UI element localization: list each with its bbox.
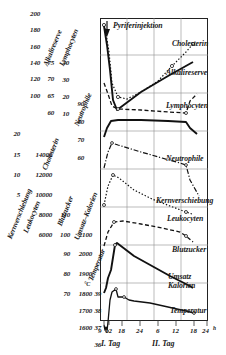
- annotation-temperatur: Temperatur: [170, 306, 206, 315]
- annotation-blutzucker: Blutzucker: [172, 245, 206, 254]
- x-tick-2: 18: [118, 327, 125, 335]
- x-tick-suffix: h: [213, 325, 216, 331]
- x-tick-4: 6: [156, 327, 160, 335]
- day-label-2: II. Tag: [152, 339, 174, 348]
- plot-canvas: [0, 0, 226, 355]
- annotation-kalorien: Kalorien: [168, 281, 195, 290]
- x-tick-0: 9: [98, 327, 102, 335]
- annotation-alkalireserve: Alkalireserve: [166, 68, 207, 77]
- annotation-umsatz: Umsatz: [168, 272, 191, 281]
- annotation-kernverschiebung: Kernverschiebung: [156, 196, 213, 205]
- x-tick-6: 18: [190, 327, 197, 335]
- annotation-pyriferinjektion: Pyriferinjektion: [113, 21, 163, 30]
- annotation-cholesterin: Cholesterin: [172, 39, 208, 48]
- x-tick-5: 12: [172, 327, 179, 335]
- x-tick-3: 24: [136, 327, 143, 335]
- annotation-leukocyten: Leukocyten: [167, 214, 203, 223]
- annotation-lymphocyten: Lymphocyten: [166, 101, 208, 110]
- x-tick-1: 12: [105, 327, 112, 335]
- annotation-neutrophile: Neutrophile: [166, 154, 203, 163]
- medical-chart-figure: 200 180 160 140 120 100 75 70 65 60 40 3…: [0, 0, 226, 355]
- day-label-1: I. Tag: [101, 339, 120, 348]
- x-tick-7: 24: [202, 327, 209, 335]
